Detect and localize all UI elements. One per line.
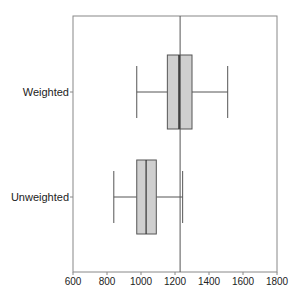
x-tick-label: 1800: [266, 276, 289, 287]
x-tick-label: 800: [99, 276, 116, 287]
y-tick-label-unweighted: Unweighted: [11, 191, 69, 203]
x-tick-label: 600: [65, 276, 82, 287]
x-tick-label: 1200: [164, 276, 187, 287]
x-tick-label: 1000: [130, 276, 153, 287]
plot-frame: [73, 16, 277, 272]
box-plot-chart: 60080010001200140016001800WeightedUnweig…: [0, 0, 303, 301]
x-tick-label: 1400: [198, 276, 221, 287]
x-tick-label: 1600: [232, 276, 255, 287]
y-tick-label-weighted: Weighted: [23, 86, 69, 98]
